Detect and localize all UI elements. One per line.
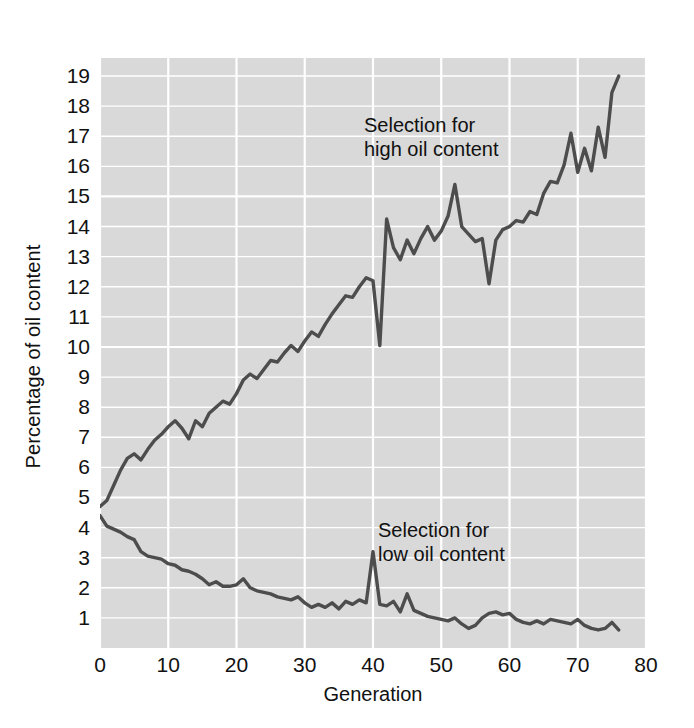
- annotation-low-line2: low oil content: [378, 543, 505, 565]
- x-tick-label: 80: [616, 654, 676, 675]
- annotation-low-oil-content: Selection forlow oil content: [378, 518, 505, 567]
- y-tick-label: 19: [44, 65, 90, 86]
- y-tick-label: 12: [44, 276, 90, 297]
- annotation-high-line2: high oil content: [364, 138, 499, 160]
- x-tick-label: 70: [548, 654, 608, 675]
- y-tick-label: 9: [44, 366, 90, 387]
- x-tick-label: 40: [343, 654, 403, 675]
- y-tick-label: 14: [44, 216, 90, 237]
- x-axis-title: Generation: [100, 683, 646, 706]
- series-line-low-oil: [100, 516, 619, 630]
- y-tick-label: 16: [44, 155, 90, 176]
- y-tick-label: 13: [44, 246, 90, 267]
- y-tick-label: 6: [44, 456, 90, 477]
- y-tick-label: 11: [44, 306, 90, 327]
- x-tick-label: 60: [480, 654, 540, 675]
- y-axis-title: Percentage of oil content: [22, 157, 45, 557]
- x-tick-label: 50: [411, 654, 471, 675]
- y-tick-label: 8: [44, 396, 90, 417]
- y-tick-label: 15: [44, 185, 90, 206]
- y-tick-label: 3: [44, 547, 90, 568]
- y-tick-label: 2: [44, 577, 90, 598]
- y-tick-label: 4: [44, 517, 90, 538]
- y-tick-label: 1: [44, 607, 90, 628]
- series-line-high-oil: [100, 76, 619, 506]
- y-tick-label: 18: [44, 95, 90, 116]
- annotation-high-oil-content: Selection forhigh oil content: [364, 113, 499, 162]
- oil-content-chart-figure: Percentage of oil content 12345678910111…: [0, 0, 694, 728]
- x-tick-label: 10: [138, 654, 198, 675]
- y-tick-label: 7: [44, 426, 90, 447]
- x-tick-label: 0: [70, 654, 130, 675]
- y-tick-label: 5: [44, 486, 90, 507]
- annotation-high-line1: Selection for: [364, 114, 475, 136]
- x-tick-label: 30: [275, 654, 335, 675]
- annotation-low-line1: Selection for: [378, 519, 489, 541]
- y-tick-label: 17: [44, 125, 90, 146]
- y-tick-label: 10: [44, 336, 90, 357]
- x-tick-label: 20: [207, 654, 267, 675]
